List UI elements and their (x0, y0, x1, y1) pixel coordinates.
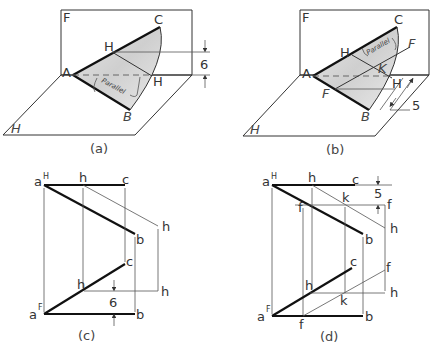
label-h-plane: H (250, 122, 260, 137)
label-b: B (361, 109, 370, 124)
label-h2: H (392, 76, 402, 91)
label-h1: H (340, 45, 350, 60)
label-f-bottom: f (299, 317, 304, 332)
label-h-top: h (79, 170, 87, 185)
label-h-right-top: h (162, 219, 170, 234)
label-k-top: k (342, 190, 350, 205)
label-a-h-sup: H (43, 172, 49, 181)
top-line-hh (83, 185, 158, 226)
label-h1: H (104, 39, 114, 54)
label-b-front: b (136, 307, 144, 322)
label-c-front: c (350, 254, 357, 269)
descriptive-geometry-figure: Parallel F H A C B H H 6 (a) Parallel (0, 0, 433, 348)
label-c-top: c (122, 172, 129, 187)
label-f-right-front: f (386, 260, 391, 275)
label-a: A (62, 65, 71, 80)
label-f-left-top: f (298, 200, 303, 215)
label-a-h: a (34, 174, 42, 189)
label-a-f-sup: F (266, 305, 271, 314)
label-h-front: h (305, 278, 313, 293)
label-a: A (302, 66, 311, 81)
label-f1: F (322, 86, 330, 101)
label-f-plane: F (63, 10, 70, 25)
dim-arrow (391, 98, 396, 105)
caption-a: (a) (90, 141, 108, 156)
dimension-6: 6 (200, 57, 208, 72)
label-c-front: c (126, 254, 133, 269)
label-a-f-sup: F (38, 303, 43, 312)
figure-c: a H h c b h c h h a F b 6 (c) (29, 170, 170, 343)
label-h-front: h (77, 277, 85, 292)
label-h-right-front: h (390, 285, 398, 300)
label-b-top: b (136, 232, 144, 247)
label-a-h: a (262, 174, 270, 189)
figure-a: Parallel F H A C B H H 6 (a) (3, 10, 210, 156)
caption-c: (c) (78, 328, 95, 343)
label-b-front: b (365, 309, 373, 324)
dimension-5: 5 (412, 98, 420, 113)
label-a-f: a (257, 309, 265, 324)
label-h2: H (153, 74, 163, 89)
caption-d: (d) (320, 329, 338, 344)
figure-b: Parallel F H A C B H H K F F 5 (b) (243, 10, 429, 157)
label-h-top: h (308, 170, 316, 185)
label-h-right-front: h (161, 284, 169, 299)
dim-arrow (407, 80, 412, 88)
dimension-5: 5 (374, 186, 382, 201)
label-c: C (394, 12, 403, 27)
label-f-plane: F (302, 10, 309, 25)
label-c: C (154, 12, 163, 27)
caption-b: (b) (326, 142, 344, 157)
top-line-ab (44, 185, 135, 234)
label-f-right-top: f (387, 197, 392, 212)
label-k-front: k (340, 293, 348, 308)
figure-d: a H h c k f f h b 5 c f h h k a F f b (d… (257, 170, 398, 344)
label-k: K (378, 61, 388, 76)
label-h-plane: H (11, 121, 21, 136)
label-b: B (123, 109, 132, 124)
label-f2: F (408, 36, 416, 51)
label-c-top: c (352, 172, 359, 187)
label-a-h-sup: H (271, 172, 277, 181)
label-h-right-top: h (390, 221, 398, 236)
label-b-top: b (365, 232, 373, 247)
dimension-6: 6 (109, 295, 117, 310)
label-a-f: a (29, 307, 37, 322)
